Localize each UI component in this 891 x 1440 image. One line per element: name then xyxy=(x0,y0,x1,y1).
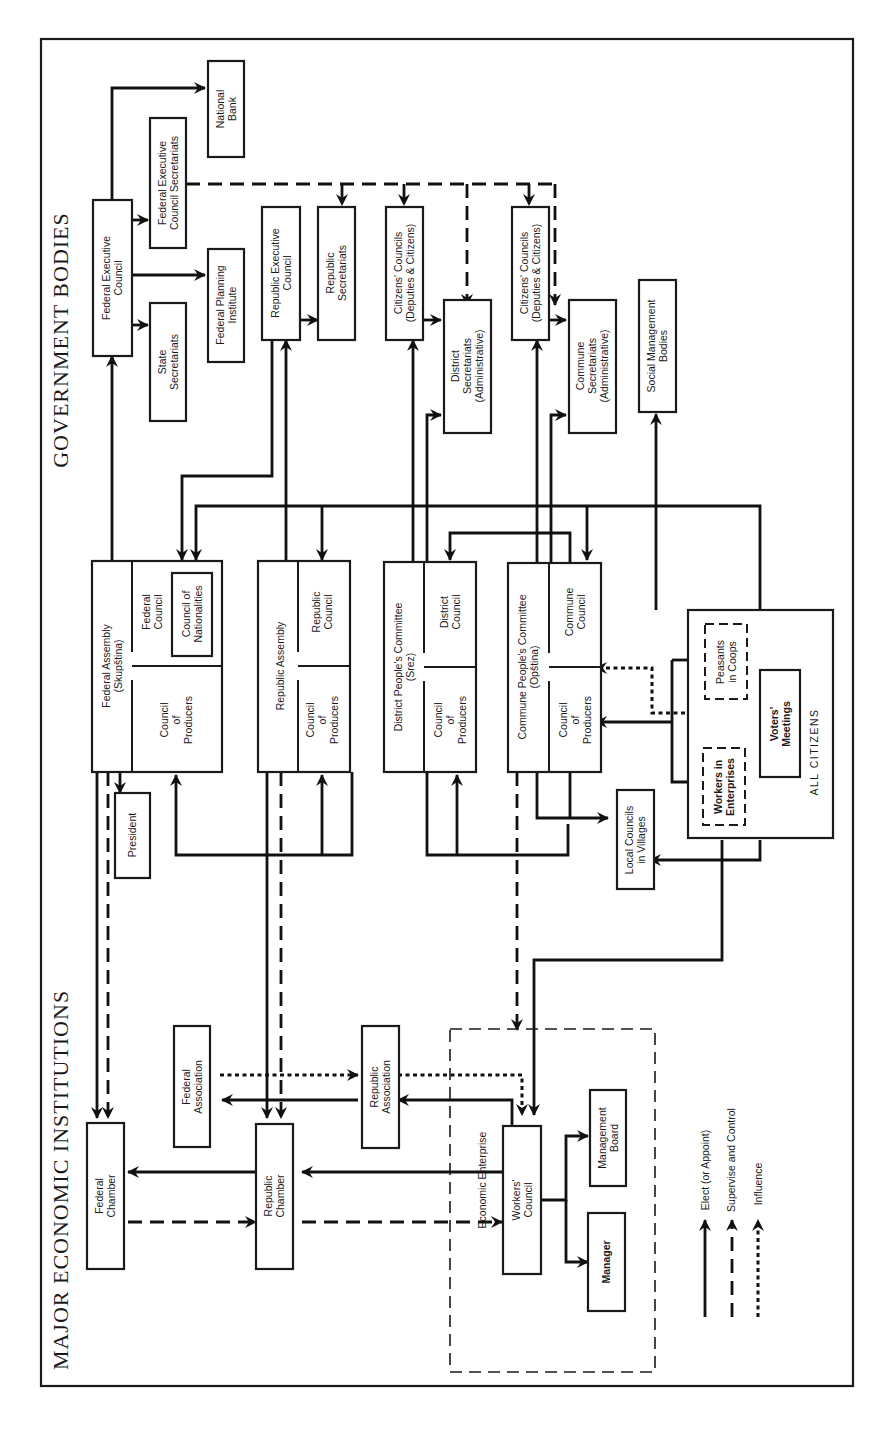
svg-text:Voters'Meetings: Voters'Meetings xyxy=(768,701,792,747)
node-district-council: DistrictCouncil xyxy=(438,594,462,629)
svg-text:RepublicCouncil: RepublicCouncil xyxy=(310,592,334,633)
svg-text:RepublicSecretariats: RepublicSecretariats xyxy=(324,245,348,301)
svg-text:Workers inEnterprises: Workers inEnterprises xyxy=(712,758,736,816)
node-peasants-in-coops: Peasantsin Coops xyxy=(705,624,747,699)
node-republic-assembly: Republic Assembly RepublicCouncil Counci… xyxy=(258,561,350,772)
svg-text:President: President xyxy=(126,813,138,857)
svg-text:RepublicChamber: RepublicChamber xyxy=(262,1174,286,1218)
node-fec-secretariats: Federal ExecutiveCouncil Secretariats xyxy=(150,118,186,248)
node-voters-meetings: Voters'Meetings xyxy=(760,670,800,777)
svg-text:Peasantsin Coops: Peasantsin Coops xyxy=(714,640,738,684)
node-citizens-councils-commune: Citizens' Councils(Deputies & Citizens) xyxy=(512,207,549,340)
node-management-board: ManagementBoard xyxy=(590,1090,626,1186)
node-national-bank: NationalBank xyxy=(208,61,244,157)
svg-text:Economic Enterprise: Economic Enterprise xyxy=(476,1131,488,1228)
svg-text:GOVERNMENT BODIES: GOVERNMENT BODIES xyxy=(48,212,73,468)
svg-text:Citizens' Councils(Deputies &: Citizens' Councils(Deputies & Citizens) xyxy=(518,224,542,323)
svg-text:Influence: Influence xyxy=(752,1163,764,1206)
node-republic-council: RepublicCouncil xyxy=(310,592,334,633)
legend: Elect (or Appoint) Supervise and Control… xyxy=(699,1108,764,1317)
svg-text:Republic Assembly: Republic Assembly xyxy=(274,621,286,710)
node-social-management-bodies: Social ManagementBodies xyxy=(639,280,676,412)
svg-text:Federal ExecutiveCouncil Secre: Federal ExecutiveCouncil Secretariats xyxy=(156,136,180,230)
node-republic-executive-council: Republic ExecutiveCouncil xyxy=(262,207,300,340)
svg-text:FederalChamber: FederalChamber xyxy=(93,1174,117,1218)
legend-item-supervise: Supervise and Control xyxy=(725,1108,737,1317)
title-government: GOVERNMENT BODIES xyxy=(48,212,73,468)
node-commune-secretariats: CommuneSecretariats(Administrative) xyxy=(569,300,616,433)
svg-text:Council ofNationalities: Council ofNationalities xyxy=(180,585,204,642)
node-republic-secretariats: RepublicSecretariats xyxy=(318,207,355,340)
node-citizens-councils-district: Citizens' Councils(Deputies & Citizens) xyxy=(386,207,423,340)
node-president: President xyxy=(115,793,150,878)
node-republic-chamber: RepublicChamber xyxy=(256,1124,293,1269)
svg-text:CommuneCouncil: CommuneCouncil xyxy=(563,588,587,637)
svg-text:Manager: Manager xyxy=(600,1240,612,1283)
legend-item-elect: Elect (or Appoint) xyxy=(699,1130,711,1317)
svg-text:RepublicAssociation: RepublicAssociation xyxy=(368,1060,392,1114)
node-republic-association: RepublicAssociation xyxy=(362,1026,399,1148)
node-federal-executive-council: Federal ExecutiveCouncil xyxy=(93,200,132,356)
node-state-secretariats: StateSecretariats xyxy=(150,303,186,421)
org-diagram: GOVERNMENT BODIES MAJOR ECONOMIC INSTITU… xyxy=(0,0,891,1440)
node-manager: Manager xyxy=(588,1213,625,1311)
node-workers-in-enterprises: Workers inEnterprises xyxy=(703,748,745,825)
node-federal-association: FederalAssociation xyxy=(174,1026,210,1147)
node-workers-council: Workers'Council xyxy=(503,1126,541,1274)
node-commune-peoples-committee: Commune People's Committee(Opština) Comm… xyxy=(508,563,601,772)
node-local-councils: Local Councilsin Villages xyxy=(617,790,654,889)
svg-text:Citizens' Councils(Deputies &: Citizens' Councils(Deputies & Citizens) xyxy=(392,224,416,323)
node-federal-council: FederalCouncil xyxy=(140,594,164,630)
node-all-citizens: ALL CITIZENS Peasantsin Coops Voters'Mee… xyxy=(688,610,833,838)
node-council-of-nationalities: Council ofNationalities xyxy=(172,573,212,656)
svg-text:Elect (or Appoint): Elect (or Appoint) xyxy=(699,1130,711,1211)
legend-item-influence: Influence xyxy=(752,1163,764,1317)
node-district-secretariats: DistrictSecretariats(Administrative) xyxy=(444,300,491,433)
svg-text:DistrictCouncil: DistrictCouncil xyxy=(438,594,462,629)
node-federal-planning-institute: Federal PlanningInstitute xyxy=(208,249,244,362)
svg-text:FederalCouncil: FederalCouncil xyxy=(140,594,164,630)
svg-text:MAJOR ECONOMIC INSTITUTIONS: MAJOR ECONOMIC INSTITUTIONS xyxy=(48,990,73,1370)
title-economic: MAJOR ECONOMIC INSTITUTIONS xyxy=(48,990,73,1370)
node-commune-council: CommuneCouncil xyxy=(563,588,587,637)
svg-text:Workers'Council: Workers'Council xyxy=(510,1180,534,1221)
svg-text:Supervise and Control: Supervise and Control xyxy=(725,1108,737,1212)
svg-text:ALL CITIZENS: ALL CITIZENS xyxy=(808,708,820,795)
node-federal-assembly: Federal Assembly(Skupština) FederalCounc… xyxy=(92,561,222,772)
node-federal-chamber: FederalChamber xyxy=(87,1123,124,1269)
node-district-peoples-committee: District People's Committee(Srez) Distri… xyxy=(384,562,476,772)
